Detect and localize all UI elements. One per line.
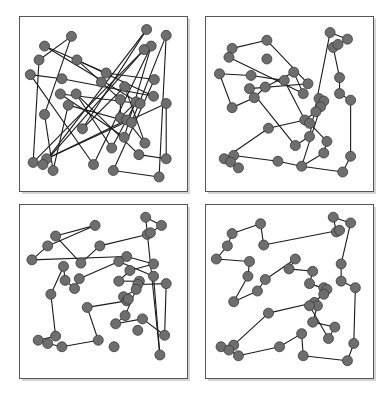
city-node [161, 30, 171, 40]
panel-tour-two-opt [20, 205, 191, 382]
city-node [57, 74, 67, 84]
city-node [346, 151, 356, 161]
panel-tour-improved [206, 17, 377, 195]
city-node [305, 132, 315, 142]
city-node [290, 141, 300, 151]
city-node [346, 95, 356, 105]
city-node [60, 275, 70, 285]
city-node [40, 41, 50, 51]
city-node [34, 55, 44, 65]
city-node [342, 356, 352, 366]
city-node [108, 165, 118, 175]
city-node [325, 28, 335, 38]
city-node [76, 258, 86, 268]
city-node [57, 342, 67, 352]
city-node [161, 154, 171, 164]
city-node [154, 172, 164, 182]
city-node [90, 220, 100, 230]
city-node [279, 75, 289, 85]
city-node [245, 84, 255, 94]
city-node [27, 255, 37, 265]
city-node [289, 67, 299, 77]
city-node [308, 317, 318, 327]
city-node [342, 34, 352, 44]
city-node [140, 138, 150, 148]
city-node [48, 165, 58, 175]
city-node [138, 314, 148, 324]
city-node [46, 289, 56, 299]
city-node [335, 73, 345, 83]
city-node [224, 345, 234, 355]
city-node [233, 351, 243, 361]
city-node [290, 254, 300, 264]
city-node [120, 311, 130, 321]
city-node [224, 52, 234, 62]
city-node [155, 350, 165, 360]
city-node [338, 167, 348, 177]
city-node [43, 338, 53, 348]
city-node [263, 308, 273, 318]
panel-random-tour [20, 17, 191, 195]
city-node [303, 79, 313, 89]
city-node [322, 136, 332, 146]
city-node [107, 143, 117, 153]
city-node [66, 31, 76, 41]
city-node [141, 212, 151, 222]
city-node [335, 89, 345, 99]
city-node [123, 294, 133, 304]
city-node [222, 241, 232, 251]
city-node [305, 118, 315, 128]
panel-tour-optimized [206, 205, 377, 382]
city-node [333, 39, 343, 49]
city-node [249, 93, 259, 103]
city-node [336, 276, 346, 286]
city-node [161, 279, 171, 289]
city-node [245, 256, 255, 266]
city-node [51, 331, 61, 341]
city-node [305, 279, 315, 289]
city-node [227, 229, 237, 239]
city-node [252, 286, 262, 296]
city-node [349, 338, 359, 348]
city-node [350, 283, 360, 293]
city-node [298, 351, 308, 361]
city-node [72, 55, 82, 65]
city-node [135, 99, 145, 109]
city-node [335, 225, 345, 235]
city-node [161, 99, 171, 109]
city-node [109, 342, 119, 352]
city-node [133, 325, 143, 335]
city-node [298, 89, 308, 99]
city-node [297, 161, 307, 171]
city-node [119, 132, 129, 142]
city-node [328, 212, 338, 222]
city-node [142, 25, 152, 35]
city-node [229, 297, 239, 307]
city-node [70, 284, 80, 294]
tour-figure [0, 0, 392, 394]
city-node [28, 157, 38, 167]
city-node [227, 43, 237, 53]
city-node [319, 289, 329, 299]
city-node [71, 89, 81, 99]
city-node [308, 266, 318, 276]
city-node [95, 241, 105, 251]
city-node [246, 70, 256, 80]
city-node [51, 231, 61, 241]
city-node [38, 160, 48, 170]
city-node [214, 69, 224, 79]
city-node [82, 302, 92, 312]
city-node [96, 77, 106, 87]
city-node [259, 240, 269, 250]
city-node [160, 330, 170, 340]
city-node [256, 219, 266, 229]
city-node [149, 271, 159, 281]
city-node [126, 117, 136, 127]
city-node [263, 123, 273, 133]
city-node [243, 271, 253, 281]
city-node [311, 107, 321, 117]
city-node [262, 35, 272, 45]
city-node [260, 275, 270, 285]
city-node [305, 301, 315, 311]
city-node [74, 274, 84, 284]
